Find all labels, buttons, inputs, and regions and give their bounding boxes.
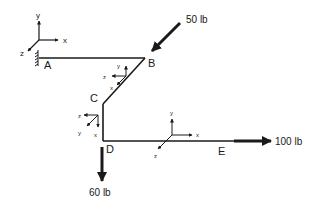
local-bc-z-label: z bbox=[103, 74, 106, 80]
fixed-support-hatch-icon bbox=[35, 50, 38, 66]
local-cd-y-label: y bbox=[78, 130, 81, 136]
force-label-60lb: 60 lb bbox=[89, 187, 111, 198]
global-z-label: z bbox=[20, 49, 24, 58]
global-axes-icon bbox=[28, 21, 58, 51]
local-bc-y-label: y bbox=[117, 63, 120, 69]
local-de-z-label: z bbox=[154, 153, 157, 159]
force-label-100lb: 100 lb bbox=[275, 136, 303, 147]
diagram-canvas: y x z A B C D E y z x z y x y x z 50 lb … bbox=[0, 0, 320, 208]
global-y-label: y bbox=[36, 11, 40, 20]
point-label-D: D bbox=[106, 143, 114, 155]
force-label-50lb: 50 lb bbox=[186, 14, 208, 25]
point-label-E: E bbox=[218, 145, 225, 157]
point-label-C: C bbox=[90, 92, 98, 104]
point-label-B: B bbox=[148, 57, 155, 69]
local-axes-cd-icon bbox=[84, 115, 98, 127]
local-de-x-label: x bbox=[196, 132, 199, 138]
member-BC bbox=[103, 58, 145, 104]
structure-members bbox=[39, 58, 240, 141]
local-de-y-label: y bbox=[170, 110, 173, 116]
local-cd-z-label: z bbox=[78, 113, 81, 119]
local-bc-x-label: x bbox=[110, 85, 113, 91]
point-label-A: A bbox=[44, 59, 52, 71]
local-axes-de-icon bbox=[158, 119, 192, 149]
structure-diagram: y x z A B C D E y z x z y x y x z 50 lb … bbox=[0, 0, 320, 208]
force-arrow-50lb-icon bbox=[152, 23, 180, 51]
local-cd-x-label: x bbox=[94, 132, 97, 138]
global-x-label: x bbox=[63, 36, 67, 45]
